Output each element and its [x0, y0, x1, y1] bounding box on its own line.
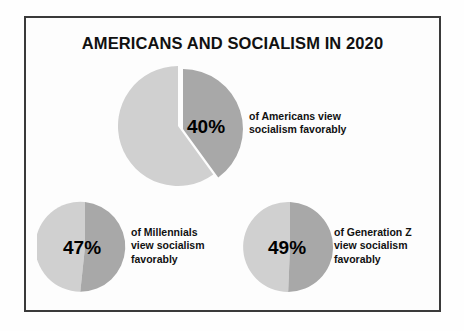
pie-caption-millennials-line1: of Millennials: [131, 226, 205, 239]
pie-caption-americans: of Americans view socialism favorably: [249, 110, 346, 137]
pie-caption-millennials-line2: view socialism: [131, 239, 205, 252]
pie-caption-americans-line1: of Americans view: [249, 110, 346, 123]
pie-caption-millennials: of Millennials view socialism favorably: [131, 226, 205, 266]
page-title: AMERICANS AND SOCIALISM IN 2020: [24, 34, 441, 53]
pie-caption-genz-line1: of Generation Z: [334, 226, 412, 239]
pie-caption-genz-line2: view socialism: [334, 239, 412, 252]
pie-caption-americans-line2: socialism favorably: [249, 123, 346, 136]
infographic-canvas: AMERICANS AND SOCIALISM IN 2020 40% of A…: [0, 0, 464, 331]
pie-caption-genz-line3: favorably: [334, 253, 412, 266]
pie-value-genz: 49%: [268, 238, 306, 257]
pie-chart-americans: [113, 60, 247, 194]
pie-value-millennials: 47%: [63, 238, 101, 257]
pie-value-americans: 40%: [187, 117, 225, 136]
pie-caption-genz: of Generation Z view socialism favorably: [334, 226, 412, 266]
pie-caption-millennials-line3: favorably: [131, 253, 205, 266]
pie-americans-svg: [113, 60, 247, 194]
